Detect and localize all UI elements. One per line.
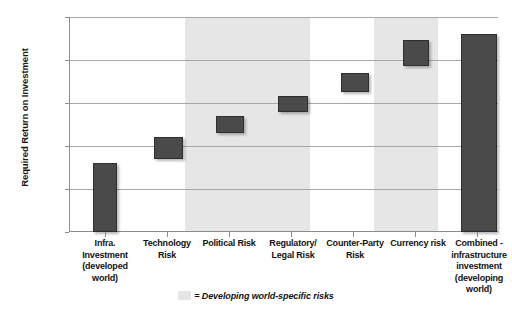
chart-legend: = Developing world-specific risks <box>0 286 512 304</box>
bar-combined-infrastructure-developing <box>461 34 497 232</box>
bar-regulatory-legal-risk <box>278 96 308 112</box>
bar-counter-party-risk <box>341 73 369 92</box>
bar-infra-investment-developed <box>93 163 117 232</box>
plot-frame <box>69 17 498 232</box>
xtick-mark-3 <box>291 232 292 237</box>
bar-technology-risk <box>154 137 183 159</box>
y-axis-title: Required Return on Investment <box>19 8 30 228</box>
legend-label-developing-risk: = Developing world-specific risks <box>194 291 334 301</box>
bar-political-risk <box>216 116 244 133</box>
ytick-mark-0 <box>65 232 69 233</box>
xtick-mark-4 <box>353 232 354 237</box>
xtick-mark-0 <box>105 232 106 237</box>
xtick-mark-2 <box>229 232 230 237</box>
xtick-mark-1 <box>167 232 168 237</box>
legend-swatch-developing-risk <box>178 291 191 300</box>
xtick-mark-6 <box>477 232 478 237</box>
chart-container: Required Return on Investment 25% 20% 15… <box>0 0 512 315</box>
plot-area: 25% 20% 15% 10% 5% 0% <box>69 17 498 232</box>
bar-currency-risk <box>403 40 429 66</box>
xtick-mark-5 <box>415 232 416 237</box>
